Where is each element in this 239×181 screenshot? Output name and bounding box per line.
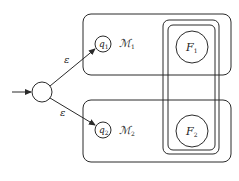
epsilon-transition-1	[50, 49, 95, 86]
final-set-f1-label: F1	[185, 41, 197, 54]
state-q1-label: q1	[99, 39, 109, 50]
nfa-diagram: ε ε q1 q2 ℳ1 ℳ2 F1 F2	[0, 0, 239, 181]
initial-state	[32, 82, 52, 102]
epsilon-label-1: ε	[64, 54, 69, 65]
machine-1-label: ℳ1	[119, 37, 135, 50]
machine-2-label: ℳ2	[119, 124, 135, 137]
epsilon-label-2: ε	[60, 107, 65, 118]
final-set-f2-label: F2	[185, 125, 198, 138]
epsilon-transition-2	[50, 98, 95, 125]
state-q2-label: q2	[99, 125, 109, 136]
